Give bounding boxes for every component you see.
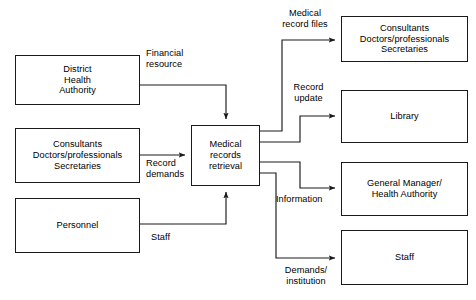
- flow-label-staff-input: Staff: [151, 232, 170, 243]
- flow-label-record-update: Record update: [285, 82, 332, 104]
- node-district-health-authority[interactable]: District Health Authority: [15, 55, 140, 105]
- connector-personnel-to-retrieval: [140, 192, 226, 224]
- node-consultants-source[interactable]: Consultants Doctors/professionals Secret…: [15, 128, 140, 183]
- flow-label-record-demands: Record demands: [146, 158, 184, 180]
- flow-label-demands-institution: Demands/ institution: [280, 265, 332, 287]
- flow-label-financial-resource: Financial resource: [146, 48, 183, 70]
- dataflow-diagram: District Health Authority Consultants Do…: [0, 0, 476, 300]
- node-general-manager[interactable]: General Manager/ Health Authority: [341, 162, 468, 216]
- node-library[interactable]: Library: [341, 90, 468, 143]
- connector-retrieval-to-library: [260, 116, 335, 142]
- node-label-personnel: Personnel: [55, 220, 101, 231]
- node-label-library: Library: [388, 111, 420, 122]
- flow-label-information: Information: [276, 194, 323, 205]
- node-label-consultants-target: Consultants Doctors/professionals Secret…: [358, 23, 451, 56]
- node-label-general-manager: General Manager/ Health Authority: [365, 178, 444, 200]
- connector-retrieval-to-general-manager: [260, 162, 335, 188]
- connector-district-to-retrieval: [140, 85, 226, 119]
- flow-label-medical-record-files: Medical record files: [275, 8, 335, 30]
- connector-retrieval-to-staff: [260, 173, 335, 258]
- node-label-medical-records-retrieval: Medical records retrieval: [207, 139, 244, 172]
- node-label-staff-target: Staff: [393, 252, 416, 263]
- node-label-district-health-authority: District Health Authority: [57, 64, 98, 97]
- node-personnel[interactable]: Personnel: [15, 198, 140, 253]
- node-staff-target[interactable]: Staff: [341, 230, 468, 285]
- node-label-consultants-source: Consultants Doctors/professionals Secret…: [31, 139, 124, 172]
- node-medical-records-retrieval[interactable]: Medical records retrieval: [191, 125, 260, 186]
- node-consultants-target[interactable]: Consultants Doctors/professionals Secret…: [341, 16, 468, 62]
